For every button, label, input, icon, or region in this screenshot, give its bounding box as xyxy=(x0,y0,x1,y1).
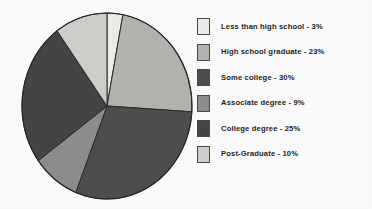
legend-item-less-than-high-school: Less than high school - 3% xyxy=(197,14,369,40)
legend-swatch-icon xyxy=(197,44,210,61)
legend-item-college-degree: College degree - 25% xyxy=(197,116,369,142)
pie-chart-figure: Less than high school - 3% High school g… xyxy=(0,0,372,209)
legend-item-post-graduate: Post-Graduate - 10% xyxy=(197,142,369,168)
pie-svg xyxy=(18,10,196,202)
legend-item-label: Post-Graduate - 10% xyxy=(221,150,298,158)
legend-item-associate-degree: Associate degree - 9% xyxy=(197,91,369,117)
legend-swatch-icon xyxy=(197,69,210,86)
legend-item-label: Less than high school - 3% xyxy=(221,23,323,31)
legend-item-some-college: Some college - 30% xyxy=(197,65,369,91)
legend-swatch-icon xyxy=(197,146,210,163)
legend-swatch-icon xyxy=(197,18,210,35)
pie-chart-graphic xyxy=(18,10,196,202)
legend-swatch-icon xyxy=(197,95,210,112)
legend-item-label: High school graduate - 23% xyxy=(221,48,324,56)
legend-item-label: Some college - 30% xyxy=(221,74,295,82)
chart-legend: Less than high school - 3% High school g… xyxy=(197,14,369,194)
legend-item-label: Associate degree - 9% xyxy=(221,99,305,107)
legend-item-high-school-graduate: High school graduate - 23% xyxy=(197,40,369,66)
legend-item-label: College degree - 25% xyxy=(221,125,300,133)
pie-slice-group xyxy=(22,13,192,199)
legend-swatch-icon xyxy=(197,120,210,137)
